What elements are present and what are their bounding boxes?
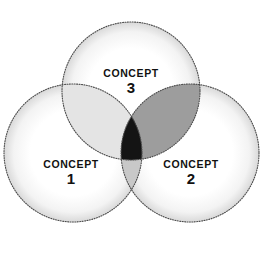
label-concept-1-name: CONCEPT [28, 159, 114, 170]
label-concept-1-number: 1 [28, 171, 114, 187]
label-concept-3-number: 3 [88, 80, 174, 96]
label-concept-2-number: 2 [148, 171, 234, 187]
label-concept-2: CONCEPT 2 [148, 159, 234, 187]
venn-diagram: CONCEPT 3 CONCEPT 1 CONCEPT 2 [0, 0, 265, 258]
label-concept-1: CONCEPT 1 [28, 159, 114, 187]
label-concept-3: CONCEPT 3 [88, 68, 174, 96]
label-concept-3-name: CONCEPT [88, 68, 174, 79]
label-concept-2-name: CONCEPT [148, 159, 234, 170]
venn-canvas [0, 0, 265, 258]
